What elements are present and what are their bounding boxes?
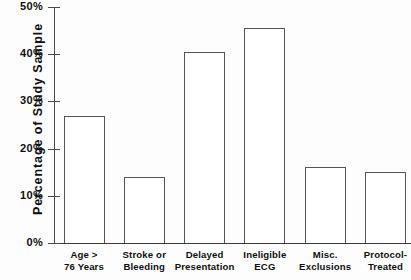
y-axis-tick: 20%	[48, 149, 60, 150]
x-axis-label: DelayedPresentation	[170, 249, 238, 272]
y-axis-tick-label: 30%	[20, 94, 43, 106]
x-axis-label-line1: Stroke or	[123, 249, 166, 260]
x-axis-labels: Age >76 YearsStroke orBleedingDelayedPre…	[54, 249, 411, 280]
x-axis-label-line2: Presentation	[170, 261, 238, 273]
x-axis-label: Protocol-Treated	[351, 249, 411, 272]
y-axis-tick: 0%	[48, 243, 60, 244]
x-axis-label-line2: 76 Years	[50, 261, 118, 273]
y-axis-tick: 10%	[48, 196, 60, 197]
bar	[244, 28, 285, 243]
y-axis-line	[54, 7, 55, 244]
x-axis-label: Misc.Exclusions	[291, 249, 359, 272]
x-axis-label-line2: Treated	[351, 261, 411, 273]
y-axis-tick: 50%	[48, 7, 60, 8]
y-axis-tick-label: 20%	[20, 142, 43, 154]
x-axis-label: Stroke orBleeding	[110, 249, 178, 272]
bar	[64, 116, 105, 243]
x-axis-label-line1: Age >	[70, 249, 97, 260]
bar	[365, 172, 406, 243]
x-axis-label-line1: Protocol-	[364, 249, 407, 260]
x-axis-label-line2: Bleeding	[110, 261, 178, 273]
x-axis-label-line2: Exclusions	[291, 261, 359, 273]
y-axis-tick-label: 50%	[20, 0, 43, 12]
y-axis-tick-label: 0%	[27, 236, 44, 248]
y-axis-tick-label: 10%	[20, 189, 43, 201]
plot-area: 50%40%30%20%10%0%	[54, 7, 411, 244]
bar	[184, 52, 225, 243]
x-axis-label: IneligibleECG	[231, 249, 299, 272]
x-axis-label-line2: ECG	[231, 261, 299, 273]
x-axis-label-line1: Delayed	[186, 249, 224, 260]
bar-chart: Percentage of Study Sample 50%40%30%20%1…	[0, 0, 411, 280]
y-axis-tick-label: 40%	[20, 47, 43, 59]
x-axis-label: Age >76 Years	[50, 249, 118, 272]
bar	[124, 177, 165, 243]
y-axis-tick: 40%	[48, 54, 60, 55]
x-axis-label-line1: Misc.	[313, 249, 338, 260]
y-axis-tick: 30%	[48, 101, 60, 102]
x-axis-line	[54, 243, 411, 244]
x-axis-label-line1: Ineligible	[243, 249, 286, 260]
bar	[305, 167, 346, 243]
